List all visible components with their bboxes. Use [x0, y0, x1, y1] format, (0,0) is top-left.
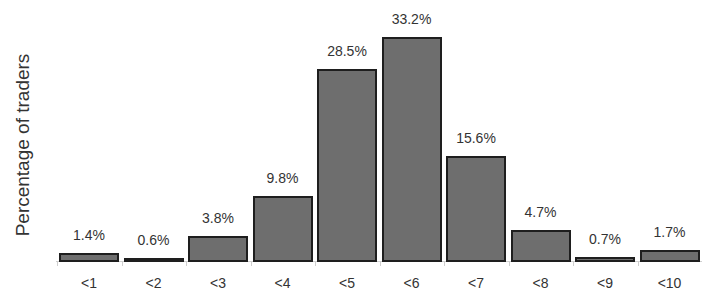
- x-tick: [380, 261, 381, 266]
- bar: [575, 257, 635, 262]
- x-tick-label: <7: [444, 275, 508, 291]
- bar-value-label: 33.2%: [372, 11, 452, 27]
- bar: [640, 250, 700, 262]
- bar-value-label: 9.8%: [243, 170, 323, 186]
- x-tick-label: <2: [122, 275, 186, 291]
- x-tick-label: <10: [638, 275, 702, 291]
- x-tick-label: <9: [573, 275, 637, 291]
- bar: [382, 37, 442, 262]
- x-tick: [638, 261, 639, 266]
- bar: [253, 196, 313, 262]
- bar-value-label: 28.5%: [307, 43, 387, 59]
- x-tick: [251, 261, 252, 266]
- x-tick: [315, 261, 316, 266]
- bar-value-label: 1.7%: [630, 224, 710, 240]
- bar: [511, 230, 571, 262]
- bar: [446, 156, 506, 262]
- bar-value-label: 4.7%: [501, 204, 581, 220]
- x-tick-label: <6: [380, 275, 444, 291]
- bar-chart: 1.4%<10.6%<23.8%<39.8%<428.5%<533.2%<615…: [0, 0, 715, 307]
- x-tick: [573, 261, 574, 266]
- bar-value-label: 3.8%: [178, 210, 258, 226]
- x-tick-label: <4: [251, 275, 315, 291]
- bar: [188, 236, 248, 262]
- x-tick: [444, 261, 445, 266]
- x-tick-label: <3: [186, 275, 250, 291]
- x-tick: [57, 261, 58, 266]
- x-tick: [122, 261, 123, 266]
- bar: [124, 258, 184, 262]
- x-tick-label: <1: [57, 275, 121, 291]
- x-tick: [509, 261, 510, 266]
- bar-value-label: 0.6%: [114, 232, 194, 248]
- x-tick-label: <8: [509, 275, 573, 291]
- bar: [59, 253, 119, 262]
- bar-value-label: 15.6%: [436, 130, 516, 146]
- x-tick-label: <5: [315, 275, 379, 291]
- bar: [317, 69, 377, 262]
- x-tick: [186, 261, 187, 266]
